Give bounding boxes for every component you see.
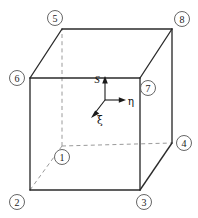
node-marker-2[interactable]: 2 xyxy=(10,195,25,210)
node-marker-5[interactable]: 5 xyxy=(48,11,63,26)
node-8-label: 8 xyxy=(180,14,185,25)
node-5-label: 5 xyxy=(53,13,58,24)
node-marker-3[interactable]: 3 xyxy=(137,195,152,210)
node-marker-7[interactable]: 7 xyxy=(141,81,156,96)
xi-axis-label: ξ xyxy=(97,114,103,126)
node-4-label: 4 xyxy=(182,138,187,149)
cube-faces xyxy=(30,29,172,190)
node-marker-8[interactable]: 8 xyxy=(175,12,190,27)
node-marker-6[interactable]: 6 xyxy=(10,71,25,86)
figure-canvas: S η ξ 1 2 3 xyxy=(0,0,198,218)
cube-diagram: S η ξ 1 2 3 xyxy=(0,0,198,218)
node-2-label: 2 xyxy=(15,197,20,208)
node-6-label: 6 xyxy=(15,73,20,84)
node-3-label: 3 xyxy=(142,197,147,208)
cube-face-front xyxy=(30,78,140,190)
eta-axis-label: η xyxy=(128,95,134,107)
node-1-label: 1 xyxy=(60,152,65,163)
node-7-label: 7 xyxy=(146,83,151,94)
node-marker-4[interactable]: 4 xyxy=(177,136,192,151)
node-marker-1[interactable]: 1 xyxy=(55,150,70,165)
s-axis-label: S xyxy=(94,74,100,85)
